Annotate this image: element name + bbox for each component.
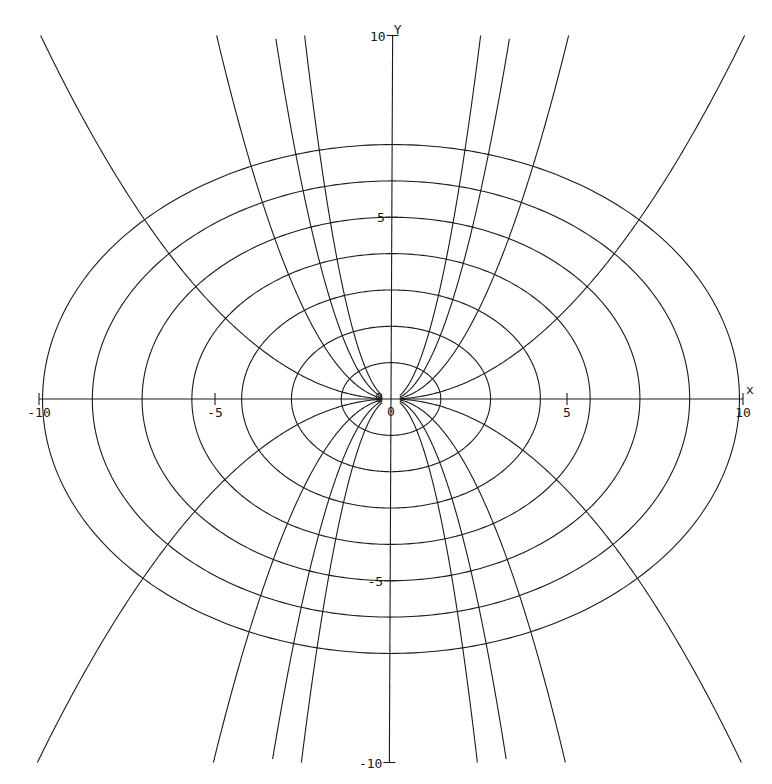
x-tick-label: 10 (735, 405, 751, 420)
parabola-curve (400, 403, 478, 763)
y-tick-label: -10 (359, 756, 382, 771)
plot-area: -10-5510 -10-5510 x Y 0 0 (0, 0, 772, 784)
x-tick-label: -5 (207, 405, 223, 420)
parabola-curve (37, 399, 382, 762)
y-tick-label: -5 (368, 574, 384, 589)
parabola-curve (400, 399, 742, 762)
parabola-curve (400, 36, 745, 399)
x-tick-label: -10 (27, 405, 50, 420)
x-axis-label: x (746, 382, 754, 397)
parabola-curve (305, 36, 383, 396)
y-tick-label: 5 (377, 210, 385, 225)
axes-group: -10-5510 -10-5510 x Y 0 0 (27, 22, 754, 771)
origin-label-y: 0 (387, 404, 395, 419)
origin-label-x: 0 (375, 390, 383, 405)
parabola-curve (400, 36, 481, 396)
x-tick-label: 5 (563, 405, 571, 420)
y-axis-label: Y (394, 22, 402, 37)
parabola-curve (41, 36, 383, 399)
orthogonal-curves-plot: -10-5510 -10-5510 x Y 0 0 (0, 0, 772, 784)
y-tick-label: 10 (370, 29, 386, 44)
